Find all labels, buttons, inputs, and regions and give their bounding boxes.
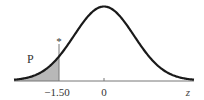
shaded-tail-area bbox=[14, 56, 59, 81]
shaded-area-label: P bbox=[27, 52, 34, 66]
tick-label: 0 bbox=[101, 86, 107, 98]
normal-curve-chart: * P −1.50 0 z bbox=[0, 0, 204, 100]
density-curve bbox=[14, 7, 194, 80]
tick-label: −1.50 bbox=[44, 86, 70, 98]
x-axis-label: z bbox=[185, 86, 191, 98]
cutoff-star-marker: * bbox=[56, 35, 62, 47]
